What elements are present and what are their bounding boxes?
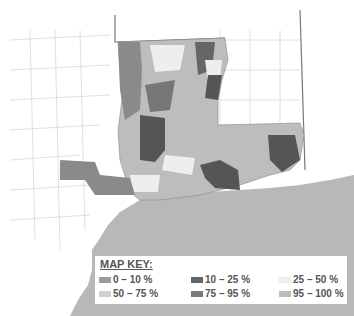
legend-title: MAP KEY:: [100, 258, 153, 270]
legend-item-95-100: 95 – 100 %: [279, 288, 344, 299]
legend-item-10-25: 10 – 25 %: [191, 274, 250, 285]
parish-light: [150, 45, 185, 72]
legend-swatch: [191, 291, 203, 297]
legend-label: 25 – 50 %: [293, 274, 338, 285]
legend-swatch: [279, 291, 291, 297]
legend-label: 95 – 100 %: [293, 288, 344, 299]
legend-swatch: [99, 291, 111, 297]
parish-light: [130, 175, 160, 192]
legend-label: 0 – 10 %: [113, 274, 152, 285]
legend-label: 75 – 95 %: [205, 288, 250, 299]
legend-item-75-95: 75 – 95 %: [191, 288, 250, 299]
legend-item-0-10: 0 – 10 %: [99, 274, 152, 285]
legend-row-2: 50 – 75 % 75 – 95 % 95 – 100 %: [99, 288, 349, 301]
legend-item-50-75: 50 – 75 %: [99, 288, 158, 299]
map-legend: MAP KEY: 0 – 10 % 10 – 25 % 25 – 50 % 50…: [95, 256, 347, 304]
legend-item-25-50: 25 – 50 %: [279, 274, 338, 285]
legend-label: 50 – 75 %: [113, 288, 158, 299]
legend-swatch: [191, 277, 203, 283]
legend-swatch: [279, 277, 291, 283]
legend-swatch: [99, 277, 111, 283]
legend-row-1: 0 – 10 % 10 – 25 % 25 – 50 %: [99, 274, 349, 287]
legend-label: 10 – 25 %: [205, 274, 250, 285]
